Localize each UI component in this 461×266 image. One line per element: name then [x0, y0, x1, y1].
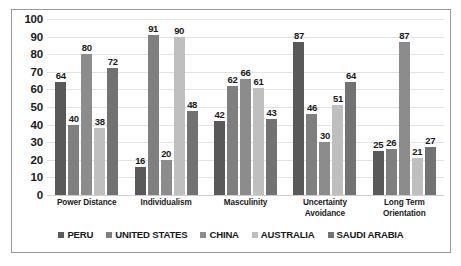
bar-value-label: 91: [148, 23, 158, 34]
y-axis-tick-label: 40: [12, 120, 43, 130]
y-axis-tick-label: 90: [12, 32, 43, 42]
bar-value-label: 38: [95, 116, 105, 127]
category-label-line: Masculinity: [206, 198, 285, 209]
bar: 72: [107, 68, 118, 195]
y-axis-tick-label: 50: [12, 102, 43, 112]
bar-value-label: 26: [386, 137, 396, 148]
bar: 51: [332, 105, 343, 195]
bar: 90: [174, 37, 185, 195]
bar-value-label: 90: [174, 25, 184, 36]
legend-swatch-icon: [252, 232, 258, 238]
bar-value-label: 66: [241, 67, 251, 78]
bar-group: 2526872127: [365, 19, 444, 195]
bar-value-label: 80: [82, 42, 92, 53]
legend-label: PERU: [67, 229, 93, 240]
legend-label: CHINA: [209, 229, 238, 240]
y-axis-tick-label: 60: [12, 84, 43, 94]
x-axis-category-label: Power Distance: [47, 198, 126, 228]
legend-swatch-icon: [200, 232, 206, 238]
bar-group: 8746305164: [285, 19, 364, 195]
bar: 20: [161, 160, 172, 195]
bar: 62: [227, 86, 238, 195]
y-axis-tick-label: 30: [12, 137, 43, 147]
bar-value-label: 25: [373, 139, 383, 150]
bar: 26: [386, 149, 397, 195]
plot-area: 6440803872169120904842626661438746305164…: [47, 19, 444, 195]
category-label-line: Individualism: [126, 198, 205, 209]
category-label-line: Orientation: [365, 209, 444, 220]
bar: 27: [425, 147, 436, 195]
legend-item[interactable]: UNITED STATES: [106, 229, 187, 240]
y-axis-tick-label: 10: [12, 172, 43, 182]
category-label-line: Uncertainty: [285, 198, 364, 209]
bar-group: 6440803872: [47, 19, 126, 195]
bar: 30: [319, 142, 330, 195]
legend-label: AUSTRALIA: [261, 229, 315, 240]
bar-value-label: 27: [425, 135, 435, 146]
category-label-line: Power Distance: [47, 198, 126, 209]
x-axis-category-label: Masculinity: [206, 198, 285, 228]
bar-value-label: 64: [56, 70, 66, 81]
bar-groups: 6440803872169120904842626661438746305164…: [47, 19, 444, 195]
bar-value-label: 46: [307, 102, 317, 113]
bar: 64: [55, 82, 66, 195]
bar-value-label: 20: [161, 148, 171, 159]
x-axis-category-labels: Power DistanceIndividualismMasculinityUn…: [47, 198, 444, 228]
y-axis-tick-label: 0: [12, 190, 43, 200]
bar: 87: [293, 42, 304, 195]
gridline: [47, 195, 444, 196]
legend-item[interactable]: CHINA: [200, 229, 238, 240]
bar-value-label: 62: [228, 74, 238, 85]
bar: 64: [345, 82, 356, 195]
bar-value-label: 21: [412, 146, 422, 157]
x-axis-category-label: Individualism: [126, 198, 205, 228]
legend-label: UNITED STATES: [115, 229, 187, 240]
bar: 16: [135, 167, 146, 195]
bar-value-label: 42: [215, 109, 225, 120]
bar: 48: [187, 111, 198, 195]
legend-swatch-icon: [328, 232, 334, 238]
bar-value-label: 72: [108, 56, 118, 67]
bar-value-label: 43: [267, 107, 277, 118]
y-axis-tick-label: 20: [12, 155, 43, 165]
bar-value-label: 40: [69, 113, 79, 124]
bar-value-label: 64: [346, 70, 356, 81]
bar-group: 4262666143: [206, 19, 285, 195]
bar: 87: [399, 42, 410, 195]
bar: 42: [214, 121, 225, 195]
legend-item[interactable]: SAUDI ARABIA: [328, 229, 404, 240]
bar-value-label: 30: [320, 130, 330, 141]
bar: 91: [148, 35, 159, 195]
bar: 66: [240, 79, 251, 195]
category-label-line: Avoidance: [285, 209, 364, 220]
legend-item[interactable]: AUSTRALIA: [252, 229, 315, 240]
bar-value-label: 61: [254, 76, 264, 87]
bar-value-label: 51: [333, 93, 343, 104]
category-label-line: Long Term: [365, 198, 444, 209]
x-axis-category-label: UncertaintyAvoidance: [285, 198, 364, 228]
bar-value-label: 87: [399, 30, 409, 41]
bar: 40: [68, 125, 79, 195]
bar: 43: [266, 119, 277, 195]
bar-value-label: 48: [187, 99, 197, 110]
bar-value-label: 87: [294, 30, 304, 41]
chart-plot-wrapper: 1009080706050403020100 64408038721691209…: [12, 10, 450, 252]
legend-item[interactable]: PERU: [58, 229, 93, 240]
bar: 38: [94, 128, 105, 195]
y-axis-tick-label: 70: [12, 67, 43, 77]
legend-swatch-icon: [58, 232, 64, 238]
bar: 25: [373, 151, 384, 195]
bar: 46: [306, 114, 317, 195]
y-axis-tick-labels: 1009080706050403020100: [12, 19, 43, 195]
y-axis-tick-label: 100: [12, 14, 43, 24]
legend-label: SAUDI ARABIA: [337, 229, 404, 240]
bar-group: 1691209048: [126, 19, 205, 195]
bar: 80: [81, 54, 92, 195]
legend-swatch-icon: [106, 232, 112, 238]
bar: 61: [253, 88, 264, 195]
y-axis-tick-label: 80: [12, 49, 43, 59]
bar-value-label: 16: [135, 155, 145, 166]
chart-legend: PERUUNITED STATESCHINAAUSTRALIASAUDI ARA…: [12, 229, 450, 240]
x-axis-category-label: Long TermOrientation: [365, 198, 444, 228]
bar: 21: [412, 158, 423, 195]
